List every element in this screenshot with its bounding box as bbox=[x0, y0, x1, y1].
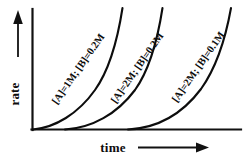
x-axis-label: time bbox=[100, 140, 125, 155]
curve-label-series-1: [A]=1M; [B]=0.2M bbox=[50, 31, 107, 106]
chart-canvas: rate time [A]=1M; [B]=0.2M [A]=2M; [B]=0… bbox=[0, 0, 247, 163]
y-axis-label: rate bbox=[7, 82, 22, 105]
rate-vs-time-kinetics-figure: rate time [A]=1M; [B]=0.2M [A]=2M; [B]=0… bbox=[0, 0, 247, 163]
y-axis-arrow bbox=[13, 10, 23, 57]
curve-series-3 bbox=[128, 8, 231, 130]
curve-label-series-2: [A]=2M; [B]=0.2M bbox=[109, 30, 166, 105]
right-arrow-icon bbox=[196, 143, 209, 153]
x-axis-arrow bbox=[138, 143, 209, 153]
up-arrow-icon bbox=[13, 10, 23, 24]
